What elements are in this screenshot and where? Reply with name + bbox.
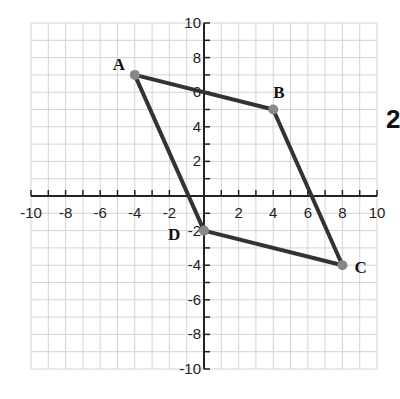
x-tick-label: 2 xyxy=(234,204,242,221)
x-tick-label: 6 xyxy=(304,204,312,221)
y-tick-label: 8 xyxy=(193,49,201,66)
vertex-point-a xyxy=(130,70,140,80)
y-tick-label: -6 xyxy=(188,291,201,308)
coordinate-plane: -10-8-6-4-2246810108642-2-4-6-8-10ABCD xyxy=(0,0,400,399)
vertex-point-b xyxy=(268,105,278,115)
vertex-label-b: B xyxy=(273,83,284,102)
x-tick-label: -6 xyxy=(94,204,107,221)
x-tick-label: -8 xyxy=(59,204,72,221)
x-tick-label: 10 xyxy=(369,204,386,221)
vertex-point-c xyxy=(337,260,347,270)
vertex-label-a: A xyxy=(113,55,126,74)
y-tick-label: -8 xyxy=(188,325,201,342)
x-tick-label: -10 xyxy=(20,204,42,221)
y-tick-label: 4 xyxy=(193,118,201,135)
x-tick-label: 8 xyxy=(338,204,346,221)
x-tick-label: 4 xyxy=(269,204,277,221)
y-tick-label: 2 xyxy=(193,152,201,169)
x-tick-label: -2 xyxy=(163,204,176,221)
y-tick-label: -4 xyxy=(188,256,201,273)
problem-number: 2 xyxy=(386,104,400,135)
y-tick-label: 10 xyxy=(184,14,201,31)
vertex-label-d: D xyxy=(168,225,180,244)
vertex-point-d xyxy=(199,226,209,236)
vertex-label-c: C xyxy=(354,258,366,277)
y-tick-label: -10 xyxy=(179,360,201,377)
x-tick-label: -4 xyxy=(128,204,141,221)
